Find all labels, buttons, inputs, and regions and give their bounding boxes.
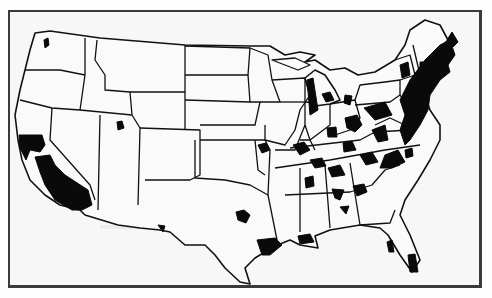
region-houston bbox=[257, 238, 282, 255]
us-outline bbox=[15, 20, 448, 284]
region-upstate-ny bbox=[400, 62, 410, 78]
region-detroit bbox=[344, 95, 352, 105]
region-nc-2 bbox=[405, 148, 413, 158]
region-memphis bbox=[305, 176, 314, 188]
us-map bbox=[0, 0, 492, 298]
region-indy bbox=[327, 127, 337, 137]
